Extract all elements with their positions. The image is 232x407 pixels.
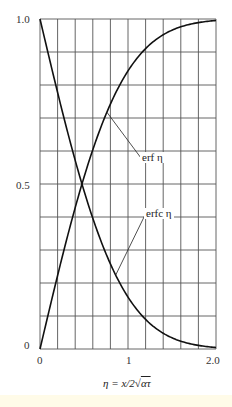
x-tick-0: 0 — [37, 355, 43, 366]
chart-container: 1.0 0.5 0 0 1 2.0 η = x/2√ατ erf η erfc … — [0, 0, 232, 407]
erfc-leader-line — [116, 215, 145, 275]
y-tick-0: 0 — [24, 340, 30, 351]
erf-curve-label: erf η — [140, 152, 165, 163]
annotation-leaders — [107, 112, 145, 275]
x-axis-title-root: ατ — [141, 377, 151, 389]
x-tick-1: 1 — [126, 355, 132, 366]
y-tick-1.0: 1.0 — [16, 14, 30, 25]
bottom-band — [0, 395, 232, 407]
plot-area — [0, 0, 232, 407]
x-axis-title: η = x/2√ατ — [103, 377, 151, 389]
x-axis-title-text: η = x/2 — [103, 377, 135, 389]
x-tick-2.0: 2.0 — [206, 355, 220, 366]
grid-lines — [40, 19, 216, 349]
y-tick-0.5: 0.5 — [16, 180, 30, 191]
erfc-curve-label: erfc η — [144, 208, 174, 219]
